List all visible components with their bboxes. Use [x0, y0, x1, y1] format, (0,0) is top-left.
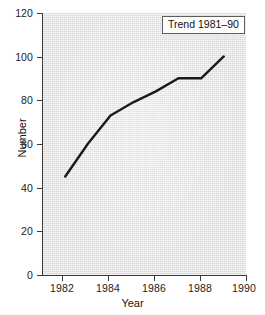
legend-label: Trend 1981–90 [168, 18, 239, 30]
y-axis-label-40: 40 [0, 182, 33, 194]
y-axis-tick-60 [37, 144, 43, 145]
chart-figure: 120 100 80 60 40 20 0 1982 1984 1986 198… [0, 0, 265, 315]
x-axis-tick-1990 [246, 275, 247, 281]
y-axis-label-20: 20 [0, 225, 33, 237]
x-axis-label-1986: 1986 [142, 282, 166, 294]
plot-background-texture [43, 13, 246, 275]
x-axis-label-1984: 1984 [96, 282, 120, 294]
y-axis-label-120: 120 [0, 7, 33, 19]
x-axis-label-1990: 1990 [232, 282, 256, 294]
legend-box: Trend 1981–90 [162, 16, 245, 34]
y-axis-tick-20 [37, 231, 43, 232]
plot-background-vignette [43, 13, 246, 275]
y-axis-label-0: 0 [0, 269, 33, 281]
x-axis-line [42, 275, 247, 276]
x-axis-tick-1984 [108, 275, 109, 281]
x-axis-label-1982: 1982 [50, 282, 74, 294]
x-axis-title: Year [0, 297, 265, 309]
x-axis-label-1988: 1988 [188, 282, 212, 294]
y-axis-title: Number [16, 98, 28, 178]
x-axis-tick-1986 [154, 275, 155, 281]
y-axis-tick-80 [37, 100, 43, 101]
x-axis-tick-1982 [62, 275, 63, 281]
y-axis-tick-40 [37, 188, 43, 189]
y-axis-tick-0 [37, 275, 43, 276]
x-axis-tick-1988 [200, 275, 201, 281]
plot-area [43, 13, 246, 275]
y-axis-tick-120 [37, 13, 43, 14]
y-axis-tick-100 [37, 57, 43, 58]
y-axis-label-100: 100 [0, 51, 33, 63]
